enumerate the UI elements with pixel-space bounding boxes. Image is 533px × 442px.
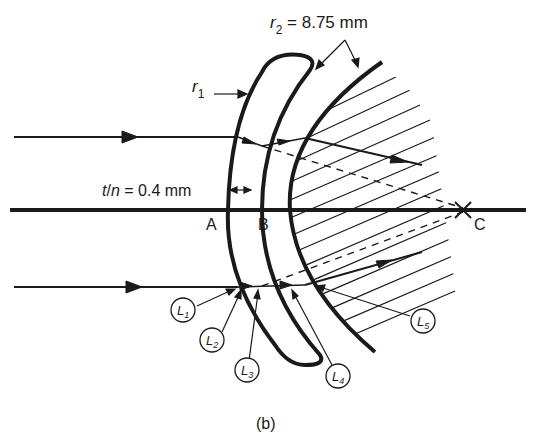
callout-l3: L3	[235, 358, 259, 382]
callout-l4: L4	[326, 364, 350, 388]
thickness-label: t/n = 0.4 mm	[102, 182, 191, 199]
thickness-dimension-arrow	[230, 187, 251, 193]
figure-caption: (b)	[256, 415, 276, 432]
contact-lens-ray-diagram: r2 = 8.75 mm r1 t/n = 0.4 mm A B C L1	[0, 0, 533, 442]
r1-leader	[214, 90, 247, 98]
thickness-value: = 0.4 mm	[120, 182, 192, 199]
r1-subscript: 1	[198, 87, 205, 101]
r2-leaders	[316, 40, 359, 69]
r2-value: = 8.75 mm	[282, 13, 368, 32]
r2-label: r2 = 8.75 mm	[270, 13, 368, 37]
point-c-label: C	[474, 216, 486, 233]
callout-l1: L1	[171, 298, 195, 322]
thickness-n: n	[111, 182, 120, 199]
point-a-label: A	[206, 216, 217, 233]
upper-ray	[14, 131, 463, 208]
callout-leaders	[197, 285, 410, 365]
point-b-label: B	[258, 216, 269, 233]
callout-l2: L2	[200, 328, 224, 352]
r1-label: r1	[192, 77, 205, 101]
callout-l5: L5	[411, 309, 435, 333]
